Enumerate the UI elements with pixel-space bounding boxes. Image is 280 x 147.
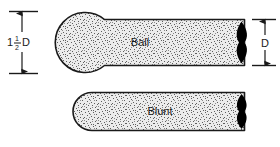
dimension-right: D [252,20,276,66]
ball-body-outline [55,13,244,73]
part-label-ball: Ball [131,36,149,48]
left-dimension-whole: 1 [7,36,13,48]
left-dimension-numerator: 1 [15,35,19,42]
part-label-blunt: Blunt [147,105,172,117]
part-ball: Ball [55,13,247,73]
left-dimension-label: 1 1 2 D [7,35,30,51]
left-dimension-denominator: 2 [15,44,19,51]
dimension-left: 1 1 2 D [7,12,38,74]
left-dimension-symbol: D [22,36,30,48]
part-blunt: Blunt [73,93,247,131]
tool-tip-diagram: Ball 1 1 2 D [0,0,280,147]
right-dimension-label: D [261,37,269,49]
diagram-canvas: Ball 1 1 2 D [0,0,280,147]
